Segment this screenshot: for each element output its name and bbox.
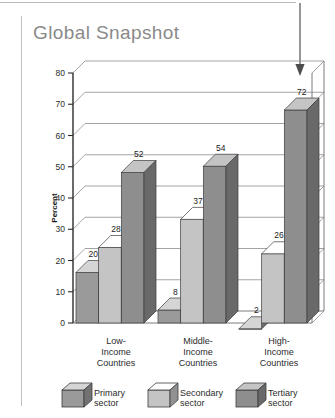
- chart-category-labels: Low-IncomeCountriesMiddle-IncomeCountrie…: [97, 336, 299, 368]
- category-label: Income: [101, 347, 131, 357]
- legend-label-line1: Tertiary: [268, 388, 298, 398]
- legend-label-line2: sector: [268, 398, 293, 408]
- legend-item-1[interactable]: Primarysector: [62, 383, 125, 408]
- bar-value-label: 26: [274, 230, 284, 240]
- bar-value-label: 8: [173, 287, 178, 297]
- svg-text:80: 80: [56, 68, 66, 78]
- legend-label-line1: Secondary: [180, 388, 224, 398]
- category-label: Countries: [179, 358, 218, 368]
- category-label: Income: [264, 347, 294, 357]
- bar-value-label: 2: [254, 305, 259, 315]
- svg-text:Percent: Percent: [50, 193, 59, 223]
- svg-text:0: 0: [60, 318, 65, 328]
- svg-text:30: 30: [56, 224, 66, 234]
- legend-swatch-front: [236, 390, 258, 407]
- chart-y-axis-title: Percent: [50, 193, 59, 223]
- chart-bars: [76, 98, 319, 329]
- legend-label-line1: Primary: [94, 388, 125, 398]
- bar-value-label: 52: [134, 149, 144, 159]
- category-label: Low-: [106, 336, 126, 346]
- chart-figure: 01020304050607080 2028528375422672 Low-I…: [0, 0, 335, 418]
- category-label: Income: [183, 347, 213, 357]
- svg-text:70: 70: [56, 99, 66, 109]
- chart-legend: PrimarysectorSecondarysectorTertiarysect…: [62, 383, 298, 408]
- bar-3-group-3: [284, 98, 319, 323]
- legend-item-2[interactable]: Secondarysector: [148, 383, 224, 408]
- legend-item-3[interactable]: Tertiarysector: [236, 383, 298, 408]
- svg-text:20: 20: [56, 256, 66, 266]
- category-label: Middle-: [183, 336, 213, 346]
- bar-3-group-1: [121, 161, 156, 324]
- legend-label-line2: sector: [180, 398, 205, 408]
- legend-label-line2: sector: [94, 398, 119, 408]
- page-canvas: Global Snapshot 01020304050607080 202852…: [0, 0, 335, 418]
- bar-value-label: 54: [216, 143, 226, 153]
- svg-text:60: 60: [56, 131, 66, 141]
- bar-chart-svg: 01020304050607080 2028528375422672 Low-I…: [0, 0, 335, 418]
- category-label: High-: [268, 336, 290, 346]
- legend-swatch-front: [148, 390, 170, 407]
- svg-text:50: 50: [56, 162, 66, 172]
- category-label: Countries: [260, 358, 299, 368]
- bar-3-group-2: [203, 154, 238, 323]
- svg-text:10: 10: [56, 287, 66, 297]
- category-label: Countries: [97, 358, 136, 368]
- bar-value-label: 72: [297, 87, 307, 97]
- bar-value-label: 37: [193, 196, 203, 206]
- bar-value-label: 20: [89, 249, 99, 259]
- bar-value-label: 28: [111, 224, 121, 234]
- legend-swatch-front: [62, 390, 84, 407]
- callout-arrow-icon: [295, 3, 304, 76]
